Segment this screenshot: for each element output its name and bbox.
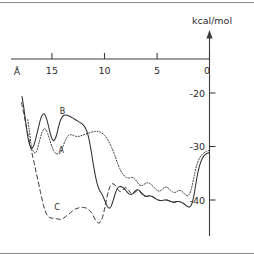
x-tick-label-15: 15 [46, 65, 58, 76]
curve-label-b: B [60, 107, 66, 116]
y-tick-label-minus30: -30 [189, 141, 205, 152]
y-axis-unit-label: kcal/mol [192, 15, 232, 26]
curve-series-b [22, 96, 210, 208]
y-tick-label-minus20: -20 [189, 88, 205, 99]
curve-label-c: C [54, 203, 60, 212]
x-tick-label-5: 5 [154, 65, 160, 76]
figure-container: 15 10 5 0 Å -20 -30 -40 kcal/mol A B C [0, 0, 254, 256]
energy-profile-chart: 15 10 5 0 Å -20 -30 -40 kcal/mol A B C [0, 0, 254, 256]
curve-label-a: A [59, 146, 65, 155]
x-tick-label-10: 10 [98, 65, 110, 76]
curve-series-c [21, 103, 177, 223]
x-axis-unit-label: Å [14, 66, 21, 77]
curve-series-a [28, 120, 210, 196]
x-tick-label-0: 0 [204, 65, 210, 76]
x-axis-ticks [52, 53, 210, 59]
y-axis-arrow-icon [206, 30, 212, 39]
y-axis-ticks [210, 93, 216, 200]
